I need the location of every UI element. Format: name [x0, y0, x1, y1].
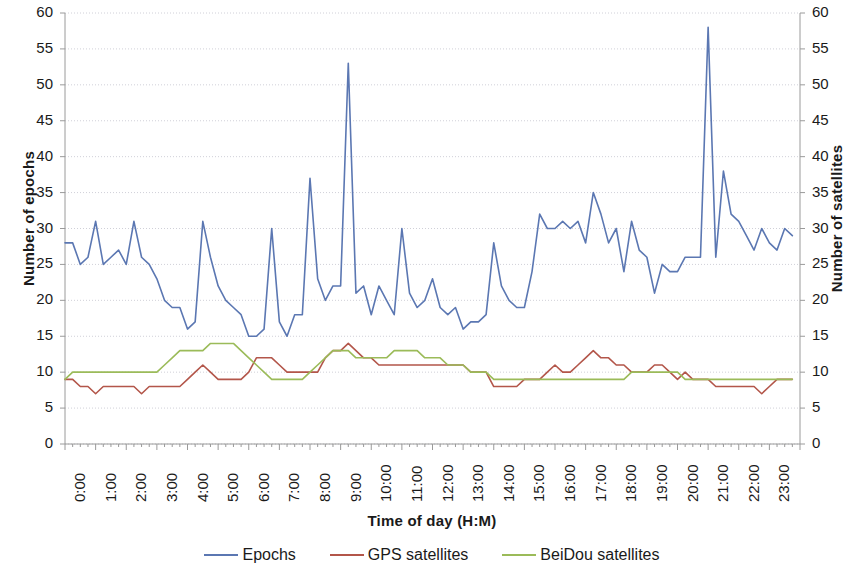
series-line-epochs — [65, 27, 792, 336]
legend-label: Epochs — [242, 546, 295, 564]
legend-line-swatch — [502, 554, 536, 556]
legend-line-swatch — [204, 554, 238, 556]
legend-label: BeiDou satellites — [540, 546, 659, 564]
series-line-gps-satellites — [65, 343, 792, 393]
chart-legend: EpochsGPS satellitesBeiDou satellites — [0, 546, 864, 564]
axis-tick-marks — [60, 13, 805, 450]
data-series — [65, 27, 792, 393]
legend-item[interactable]: Epochs — [204, 546, 295, 564]
legend-item[interactable]: BeiDou satellites — [502, 546, 659, 564]
chart-container: Number of epochs Number of satellites Ti… — [0, 0, 864, 574]
legend-item[interactable]: GPS satellites — [330, 546, 468, 564]
legend-label: GPS satellites — [368, 546, 468, 564]
legend-line-swatch — [330, 554, 364, 556]
plot-area — [0, 0, 864, 574]
